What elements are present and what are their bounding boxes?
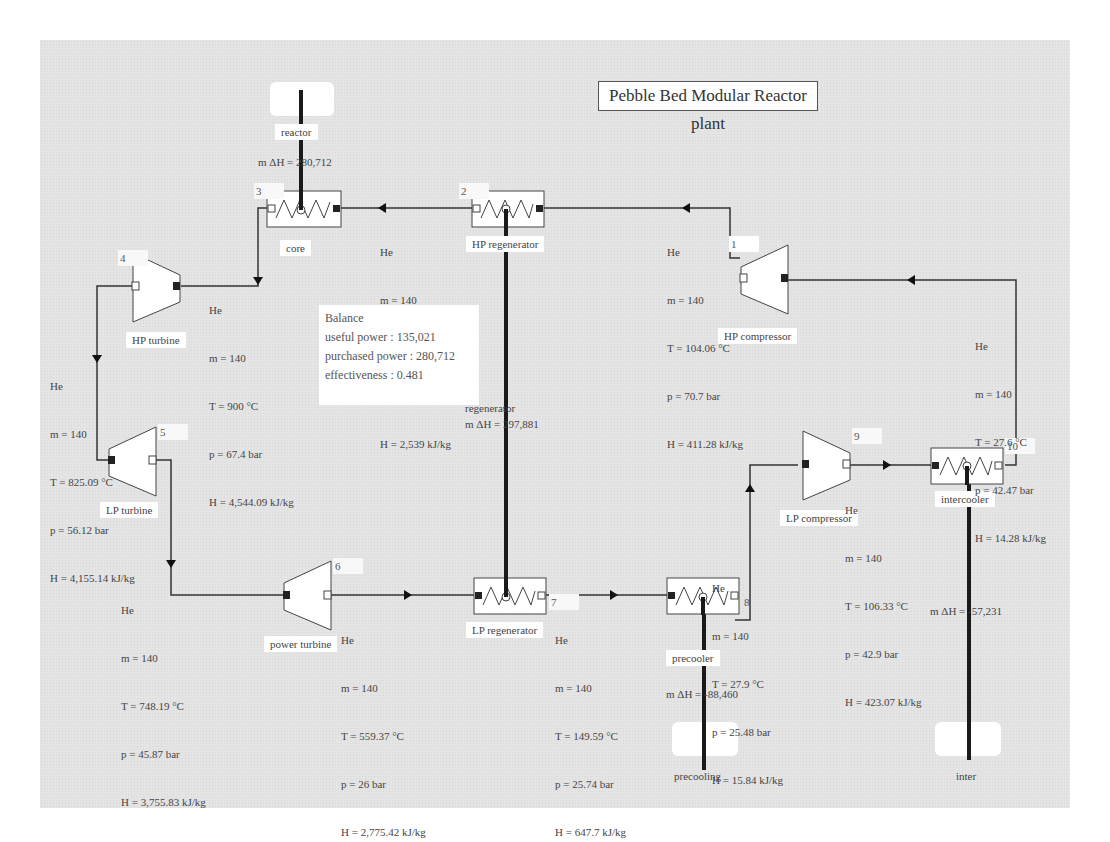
stream-mass-flow: m = 140: [712, 628, 783, 644]
stream-mass-flow: m = 140: [667, 292, 743, 308]
balance-purchased-power: purchased power : 280,712: [325, 347, 473, 366]
stream-data-hp-turbine-to-lp-turbine: He m = 140 T = 825.09 °C p = 56.12 bar H…: [50, 346, 135, 602]
stream-fluid: He: [845, 502, 921, 518]
stream-enthalpy: H = 647.7 kJ/kg: [555, 824, 626, 840]
stream-data-intercooler-to-hp-compressor: He m = 140 T = 27.6 °C p = 42.47 bar H =…: [975, 306, 1046, 562]
stream-temperature: T = 900 °C: [209, 398, 294, 414]
component-number: 4: [118, 250, 148, 266]
stream-enthalpy: H = 2,539 kJ/kg: [380, 436, 451, 452]
stream-enthalpy: H = 2,775.42 kJ/kg: [341, 824, 426, 840]
component-label-power-turbine: power turbine: [264, 636, 337, 652]
stream-fluid: He: [209, 302, 294, 318]
balance-effectiveness: effectiveness : 0.481: [325, 366, 473, 385]
hp-compressor[interactable]: [738, 242, 790, 317]
stream-temperature: T = 559.37 °C: [341, 728, 426, 744]
stream-fluid: He: [667, 244, 743, 260]
component-number: 5: [158, 424, 188, 440]
stream-mass-flow: m = 140: [341, 680, 426, 696]
component-number: 3: [254, 183, 284, 199]
balance-useful-power: useful power : 135,021: [325, 328, 473, 347]
stream-pressure: p = 67.4 bar: [209, 446, 294, 462]
stream-data-lp-turbine-to-power-turbine: He m = 140 T = 748.19 °C p = 45.87 bar H…: [121, 570, 206, 826]
power-turbine[interactable]: [281, 558, 333, 633]
balance-panel: Balance useful power : 135,021 purchased…: [319, 305, 479, 405]
stream-mass-flow: m = 140: [975, 386, 1046, 402]
stream-temperature: T = 149.59 °C: [555, 728, 626, 744]
stream-data-lp-regenerator-to-precooler: He m = 140 T = 149.59 °C p = 25.74 bar H…: [555, 600, 626, 842]
stream-pressure: p = 42.9 bar: [845, 646, 921, 662]
stream-data-lp-compressor-to-intercooler: He m = 140 T = 106.33 °C p = 42.9 bar H …: [845, 470, 921, 726]
stream-fluid: He: [712, 580, 783, 596]
stream-data-core-to-hp-turbine: He m = 140 T = 900 °C p = 67.4 bar H = 4…: [209, 270, 294, 526]
stream-pressure: p = 70.7 bar: [667, 388, 743, 404]
stream-mass-flow: m = 140: [845, 550, 921, 566]
lp-regenerator-heat-exchanger[interactable]: [473, 577, 547, 615]
source-label-reactor: reactor: [275, 124, 318, 140]
stream-enthalpy: H = 4,544.09 kJ/kg: [209, 494, 294, 510]
stream-pressure: p = 56.12 bar: [50, 522, 135, 538]
stream-temperature: T = 27.6 °C: [975, 434, 1046, 450]
stream-pressure: p = 42.47 bar: [975, 482, 1046, 498]
component-number: 9: [852, 428, 882, 444]
stream-temperature: T = 748.19 °C: [121, 698, 206, 714]
stream-data-precooler-to-lp-compressor: He m = 140 T = 27.9 °C p = 25.48 bar H =…: [712, 548, 783, 804]
source-label-inter: inter: [956, 770, 976, 782]
stream-pressure: p = 25.74 bar: [555, 776, 626, 792]
stream-data-hp-compressor-to-hp-regenerator: He m = 140 T = 104.06 °C p = 70.7 bar H …: [667, 212, 743, 468]
stream-fluid: He: [380, 244, 451, 260]
stream-mass-flow: m = 140: [209, 350, 294, 366]
stream-temperature: T = 104.06 °C: [667, 340, 743, 356]
stream-pressure: p = 45.87 bar: [121, 746, 206, 762]
balance-heading: Balance: [325, 309, 473, 328]
component-label-lp-regenerator: LP regenerator: [466, 622, 543, 638]
stream-fluid: He: [555, 632, 626, 648]
stream-enthalpy: H = 411.28 kJ/kg: [667, 436, 743, 452]
component-number: 2: [459, 183, 489, 199]
component-label-hp-turbine: HP turbine: [126, 332, 186, 348]
component-number: 6: [333, 558, 363, 574]
stream-enthalpy: H = 15.84 kJ/kg: [712, 772, 783, 788]
component-label-hp-regenerator: HP regenerator: [466, 236, 544, 252]
stream-enthalpy: H = 14.28 kJ/kg: [975, 530, 1046, 546]
stream-pressure: p = 25.48 bar: [712, 724, 783, 740]
stream-mass-flow: m = 140: [50, 426, 135, 442]
duty-regenerator: m ΔH = 297,881: [465, 418, 539, 430]
stream-enthalpy: H = 3,755.83 kJ/kg: [121, 794, 206, 810]
stream-pressure: p = 26 bar: [341, 776, 426, 792]
stream-fluid: He: [975, 338, 1046, 354]
diagram-title: Pebble Bed Modular Reactor plant: [598, 81, 818, 111]
duty-inter: m ΔH = -57,231: [930, 605, 1002, 617]
stream-temperature: T = 27.9 °C: [712, 676, 783, 692]
component-label-core: core: [280, 240, 311, 256]
stream-fluid: He: [50, 378, 135, 394]
stream-temperature: T = 106.33 °C: [845, 598, 921, 614]
stream-data-power-turbine-to-lp-regenerator: He m = 140 T = 559.37 °C p = 26 bar H = …: [341, 600, 426, 842]
stream-mass-flow: m = 140: [555, 680, 626, 696]
stream-mass-flow: m = 140: [121, 650, 206, 666]
stream-fluid: He: [121, 602, 206, 618]
stream-fluid: He: [341, 632, 426, 648]
stream-enthalpy: H = 423.07 kJ/kg: [845, 694, 921, 710]
stream-temperature: T = 825.09 °C: [50, 474, 135, 490]
duty-reactor: m ΔH = 280,712: [258, 156, 332, 168]
